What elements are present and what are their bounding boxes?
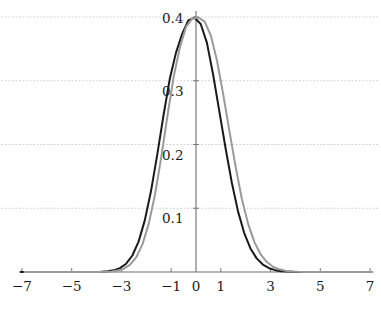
x-tick-label--1: −1 [161, 280, 181, 294]
y-tick-label-0.4: 0.4 [162, 12, 183, 26]
normal-distribution-plot [0, 0, 381, 319]
x-tick-label-3: 3 [266, 280, 275, 294]
x-tick-label-7: 7 [366, 280, 375, 294]
x-tick-label--5: −5 [62, 280, 82, 294]
x-tick-label--7: −7 [12, 280, 32, 294]
y-tick-label-0.3: 0.3 [162, 85, 183, 99]
y-tick-label-0.1: 0.1 [162, 213, 183, 227]
axes-group [22, 11, 370, 272]
x-tick-label-1: 1 [217, 280, 226, 294]
x-tick-label-5: 5 [316, 280, 325, 294]
chart-figure: −7−5−3−101357 0.10.20.30.4 [0, 0, 381, 319]
y-tick-label-0.2: 0.2 [162, 149, 183, 163]
x-tick-label--3: −3 [111, 280, 131, 294]
gridlines-group [2, 17, 379, 208]
x-tick-label-0: 0 [192, 280, 201, 294]
